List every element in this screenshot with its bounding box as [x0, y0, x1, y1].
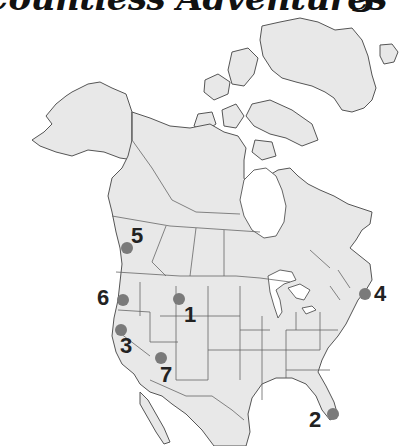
- marker-label-5: 5: [131, 225, 143, 247]
- marker-label-6: 6: [97, 287, 109, 309]
- marker-label-3: 3: [120, 335, 132, 357]
- alaska: [32, 82, 134, 160]
- marker-dot-4: [359, 288, 371, 300]
- marker-dot-6: [117, 294, 129, 306]
- greenland: [260, 18, 376, 112]
- marker-label-2: 2: [309, 409, 321, 431]
- marker-label-1: 1: [184, 304, 196, 326]
- marker-label-4: 4: [374, 283, 386, 305]
- marker-dot-2: [327, 408, 339, 420]
- marker-label-7: 7: [160, 364, 172, 386]
- north-america-map: [0, 0, 418, 446]
